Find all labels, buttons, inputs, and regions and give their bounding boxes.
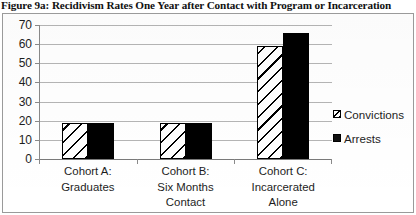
y-axis-label-0: 0 [25, 152, 32, 166]
y-axis-label-40: 40 [19, 75, 32, 89]
x-axis-label-cohort-3-line-3: Alone [234, 195, 332, 211]
legend-entry-arrests[interactable]: Arrests [333, 126, 413, 150]
x-axis-label-cohort-3-line-2: Incarcerated [234, 180, 332, 196]
legend-label-convictions: Convictions [344, 108, 404, 121]
x-axis-label-cohort-2: Cohort B:Six MonthsContact [137, 164, 235, 211]
y-tick-mark-40 [35, 82, 40, 83]
legend-entry-convictions[interactable]: Convictions [333, 102, 413, 126]
x-axis-label-cohort-1-line-2: Graduates [39, 180, 137, 196]
x-axis-label-cohort-1: Cohort A:Graduates [39, 164, 137, 195]
bar-convictions-cohort-3[interactable] [257, 46, 283, 159]
x-axis-label-cohort-2-line-2: Six Months [137, 180, 235, 196]
bar-group-1 [62, 25, 114, 159]
legend-label-arrests: Arrests [344, 132, 381, 145]
y-axis-label-50: 50 [19, 56, 32, 70]
bar-group-3 [257, 25, 309, 159]
y-tick-mark-30 [35, 102, 40, 103]
y-tick-mark-20 [35, 121, 40, 122]
legend-swatch-arrests-icon [333, 134, 341, 142]
y-axis-label-60: 60 [19, 37, 32, 51]
y-axis-label-70: 70 [19, 18, 32, 32]
x-axis-category-labels: Cohort A:GraduatesCohort B:Six MonthsCon… [39, 164, 332, 213]
y-tick-mark-70 [35, 25, 40, 26]
bar-convictions-cohort-1[interactable] [62, 123, 88, 159]
x-axis-label-cohort-2-line-3: Contact [137, 195, 235, 211]
bar-group-2 [160, 25, 212, 159]
bar-arrests-cohort-3[interactable] [283, 33, 309, 159]
y-tick-mark-50 [35, 63, 40, 64]
plot-area: 010203040506070 [39, 25, 332, 159]
x-axis-label-cohort-1-line-1: Cohort A: [39, 164, 137, 180]
x-axis-label-cohort-3: Cohort C:IncarceratedAlone [234, 164, 332, 211]
bar-convictions-cohort-2[interactable] [160, 123, 186, 159]
x-axis-label-cohort-2-line-1: Cohort B: [137, 164, 235, 180]
y-tick-mark-60 [35, 44, 40, 45]
chart-legend: ConvictionsArrests [333, 102, 413, 150]
figure-title: Figure 9a: Recidivism Rates One Year aft… [1, 0, 416, 12]
chart-frame: 010203040506070 Cohort A:GraduatesCohort… [2, 13, 414, 213]
bar-arrests-cohort-2[interactable] [186, 123, 212, 159]
legend-swatch-convictions-icon [333, 110, 341, 118]
y-axis-label-30: 30 [19, 95, 32, 109]
bar-arrests-cohort-1[interactable] [88, 123, 114, 159]
y-tick-mark-10 [35, 140, 40, 141]
y-axis-label-20: 20 [19, 114, 32, 128]
y-axis-label-10: 10 [19, 133, 32, 147]
x-axis-label-cohort-3-line-1: Cohort C: [234, 164, 332, 180]
